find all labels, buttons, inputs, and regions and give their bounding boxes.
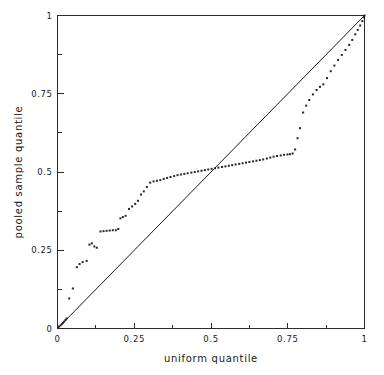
x-tick-label-0: 0 <box>54 334 60 344</box>
data-point <box>66 317 68 319</box>
data-point <box>235 163 237 165</box>
y-tick-label-2: 0.25 <box>31 245 52 255</box>
data-point <box>319 86 321 88</box>
data-point <box>115 229 117 231</box>
data-point <box>125 215 127 217</box>
data-point <box>214 167 216 169</box>
data-point <box>173 175 175 177</box>
data-point <box>252 160 254 162</box>
y-axis-title: pooled sample quantile <box>13 106 24 239</box>
data-point <box>149 182 151 184</box>
data-point <box>109 230 111 232</box>
data-point <box>156 180 158 182</box>
data-point <box>344 49 346 51</box>
data-point <box>207 169 209 171</box>
data-point <box>122 216 124 218</box>
data-point <box>289 153 291 155</box>
data-point <box>190 172 192 174</box>
data-point <box>228 165 230 167</box>
data-point <box>166 177 168 179</box>
identity-reference-line <box>58 16 365 329</box>
data-point <box>159 179 161 181</box>
data-point <box>180 174 182 176</box>
data-point <box>294 148 296 150</box>
data-point <box>103 230 105 232</box>
data-point <box>72 287 74 289</box>
x-tick-label-4: 0.5 <box>203 334 218 344</box>
y-tick-label-6: 0.75 <box>31 89 52 99</box>
data-point <box>333 65 335 67</box>
data-point <box>269 157 271 159</box>
data-point <box>217 167 219 169</box>
data-point <box>128 208 130 210</box>
x-axis-ticks <box>58 323 365 329</box>
data-point <box>283 154 285 156</box>
data-point <box>204 169 206 171</box>
data-point <box>99 230 101 232</box>
data-point <box>187 172 189 174</box>
data-point <box>153 180 155 182</box>
data-point <box>112 229 114 231</box>
data-point <box>255 160 257 162</box>
data-point <box>169 176 171 178</box>
y-tick-label-8: 1 <box>46 11 52 21</box>
data-point <box>359 25 361 27</box>
chart-canvas: 00.250.50.751 00.250.50.751 uniform quan… <box>0 0 384 375</box>
data-point <box>308 99 310 101</box>
data-point <box>297 137 299 139</box>
data-point <box>117 228 119 230</box>
data-point <box>305 105 307 107</box>
data-point <box>231 164 233 166</box>
data-point <box>348 44 350 46</box>
data-point <box>248 161 250 163</box>
data-point <box>266 158 268 160</box>
data-point <box>276 155 278 157</box>
data-point <box>341 54 343 56</box>
data-point <box>224 165 226 167</box>
data-point <box>88 244 90 246</box>
data-point <box>146 186 148 188</box>
data-point <box>140 194 142 196</box>
data-point <box>322 83 324 85</box>
data-point <box>197 170 199 172</box>
data-point <box>79 263 81 265</box>
y-axis-tick-labels: 00.250.50.751 <box>31 11 52 334</box>
y-axis-ticks <box>58 16 64 329</box>
data-point <box>221 166 223 168</box>
data-point <box>242 162 244 164</box>
qq-plot-figure: 00.250.50.751 00.250.50.751 uniform quan… <box>0 0 384 375</box>
x-axis-tick-labels: 00.250.50.751 <box>54 334 367 344</box>
data-point <box>177 174 179 176</box>
data-point <box>143 190 145 192</box>
data-point <box>286 153 288 155</box>
y-tick-label-4: 0.5 <box>37 167 52 177</box>
data-point <box>245 162 247 164</box>
data-point <box>194 171 196 173</box>
data-point <box>86 260 88 262</box>
data-point <box>211 168 213 170</box>
data-point <box>292 153 294 155</box>
data-point <box>134 203 136 205</box>
data-point <box>330 70 332 72</box>
data-point <box>361 20 363 22</box>
data-point <box>238 163 240 165</box>
data-point <box>351 39 353 41</box>
x-tick-label-2: 0.25 <box>124 334 145 344</box>
data-point <box>316 89 318 91</box>
data-point <box>183 173 185 175</box>
data-point <box>137 200 139 202</box>
data-point <box>302 112 304 114</box>
x-axis-title: uniform quantile <box>164 353 258 364</box>
data-point <box>82 261 84 263</box>
data-point <box>131 205 133 207</box>
data-point <box>96 247 98 249</box>
data-point <box>337 59 339 61</box>
data-point <box>76 266 78 268</box>
data-point <box>91 242 93 244</box>
data-point <box>280 154 282 156</box>
data-point <box>259 159 261 161</box>
data-point <box>326 77 328 79</box>
data-point <box>200 170 202 172</box>
data-point <box>273 156 275 158</box>
data-point <box>68 297 70 299</box>
